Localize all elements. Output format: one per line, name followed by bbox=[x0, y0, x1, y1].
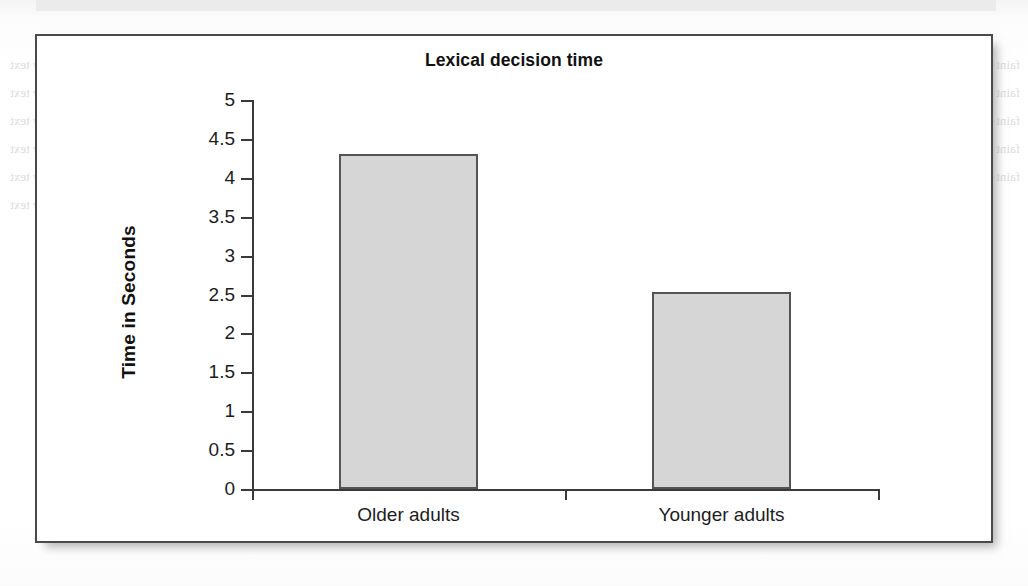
bar-chart-plot: Time in Seconds 00.511.522.533.544.55 Ol… bbox=[37, 36, 991, 541]
y-axis-tick-label: 4.5 bbox=[173, 129, 235, 148]
y-axis-tick-label: 2 bbox=[173, 323, 235, 342]
y-axis-tick-label: 2.5 bbox=[173, 285, 235, 304]
y-axis-tick bbox=[241, 372, 252, 374]
x-axis-tick bbox=[565, 489, 567, 500]
y-axis-tick bbox=[241, 333, 252, 335]
bar bbox=[652, 292, 791, 489]
y-axis-tick bbox=[241, 100, 252, 102]
y-axis-title: Time in Seconds bbox=[118, 187, 140, 417]
x-axis-tick bbox=[878, 489, 880, 500]
y-axis-tick bbox=[241, 178, 252, 180]
y-axis-tick-label: 3 bbox=[173, 246, 235, 265]
y-axis-tick-label: 1.5 bbox=[173, 362, 235, 381]
y-axis-tick-label: 4 bbox=[173, 168, 235, 187]
y-axis-tick-label: 0 bbox=[173, 479, 235, 498]
scanned-page: lines of faint reversed body text lines … bbox=[0, 0, 1028, 586]
y-axis-tick bbox=[241, 450, 252, 452]
y-axis-tick bbox=[241, 217, 252, 219]
y-axis-tick-label: 1 bbox=[173, 401, 235, 420]
figure-frame: Lexical decision time Time in Seconds 00… bbox=[35, 34, 993, 543]
bar bbox=[339, 154, 478, 489]
y-axis-tick bbox=[241, 411, 252, 413]
x-axis-tick bbox=[252, 489, 254, 500]
y-axis-tick-label: 5 bbox=[173, 90, 235, 109]
x-axis-category-label: Older adults bbox=[252, 504, 565, 526]
y-axis-tick-label: 0.5 bbox=[173, 440, 235, 459]
y-axis-tick bbox=[241, 489, 252, 491]
y-axis-line bbox=[252, 100, 254, 489]
y-axis-tick bbox=[241, 295, 252, 297]
y-axis-tick bbox=[241, 256, 252, 258]
x-axis-category-label: Younger adults bbox=[565, 504, 878, 526]
scan-edge-band bbox=[36, 0, 996, 11]
y-axis-tick-label: 3.5 bbox=[173, 207, 235, 226]
y-axis-tick bbox=[241, 139, 252, 141]
